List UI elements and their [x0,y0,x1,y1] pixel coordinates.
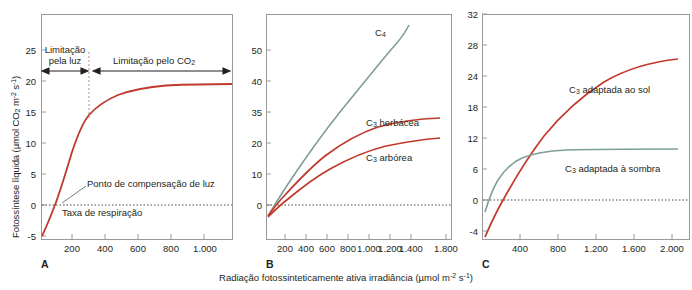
x-tick-c-400: 400 [507,243,533,254]
curve-label-c3-sun: C3 adaptada ao sol [569,84,650,97]
annotation-light-limitation-line1: Limitação [42,44,88,55]
co2-limitation-arrow [93,68,230,74]
panel-a: Fotossíntese líquida (µmol CO2 m-2 s-1) … [0,0,240,290]
curve-label-c3-herbacea: C3 herbácea [366,117,419,130]
panel-letter-c: C [482,258,490,270]
x-tick-a-200: 200 [58,243,86,254]
x-tick-a-600: 600 [124,243,152,254]
curve-label-c3-shade: C3 adaptada à sombra [565,163,660,176]
x-tick-c-1600: 1.600 [618,243,650,254]
panel-b: 50 40 35 20 10 0 [240,0,458,290]
x-tick-a-800: 800 [157,243,185,254]
annotation-co2-limitation: Limitação pelo CO2 [113,55,195,68]
panel-c: 32 28 24 18 12 6 0 -4 [458,0,692,290]
x-axis-caption: Radiação fotossinteticamente ativa irrad… [146,272,546,283]
annotation-respiration-rate: Taxa de respiração [62,207,142,218]
panel-letter-a: A [41,258,49,270]
x-tick-c-1200: 1.200 [580,243,612,254]
panel-letter-b: B [266,258,274,270]
x-tick-a-1000: 1.000 [188,243,222,254]
annotation-light-limitation-line2: pela luz [42,55,88,66]
x-tick-c-800: 800 [545,243,571,254]
compensation-leader-line [62,186,86,203]
curve-label-c4: C4 [375,27,386,40]
x-tick-b-1400: 1.400 [395,243,427,254]
x-tick-a-400: 400 [91,243,119,254]
light-limitation-arrow [42,68,88,74]
curve-label-c3-arborea: C3 arbórea [366,152,412,165]
x-tick-c-2000: 2.000 [656,243,688,254]
photosynthesis-light-response-figure: Fotossíntese líquida (µmol CO2 m-2 s-1) … [0,0,692,290]
annotation-compensation-point: Ponto de compensação de luz [87,178,215,189]
curve-b-c3-herbacea [268,118,440,216]
